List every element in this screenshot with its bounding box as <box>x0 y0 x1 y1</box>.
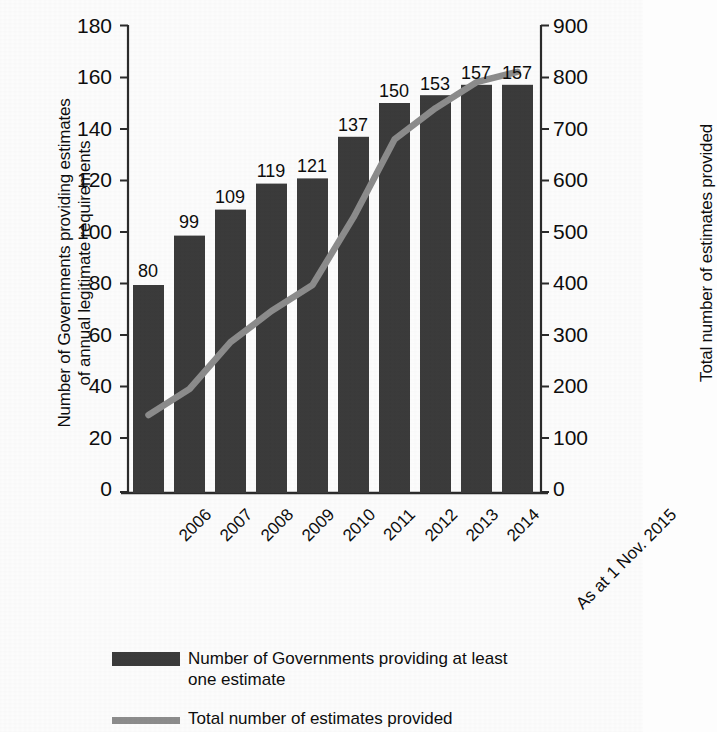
legend-swatch-line-icon <box>112 717 180 724</box>
right-axis-spine <box>541 25 549 493</box>
bar-2006 <box>133 285 164 493</box>
legend-swatch-bar-icon <box>112 652 180 666</box>
bar-label-2012: 150 <box>371 82 417 100</box>
bar-2010 <box>297 178 328 493</box>
bar-label-2015: 157 <box>494 64 540 82</box>
bar-label-2006: 80 <box>125 262 171 280</box>
legend-label-bar-line2: one estimate <box>188 670 285 689</box>
legend-label-bar-line1: Number of Governments providing at least <box>188 649 507 668</box>
bar-label-2007: 99 <box>166 213 212 231</box>
left-axis-spine <box>120 25 128 493</box>
bar-series <box>133 85 533 493</box>
bar-label-2014: 157 <box>453 64 499 82</box>
bar-2014 <box>461 85 492 493</box>
legend-item-line: Total number of estimates provided <box>112 708 582 729</box>
legend-label-line: Total number of estimates provided <box>188 708 582 729</box>
right-axis-title: Total number of estimates provided <box>697 33 717 473</box>
bar-label-2011: 137 <box>330 116 376 134</box>
chart-legend: Number of Governments providing at least… <box>112 648 582 732</box>
legend-label-bar: Number of Governments providing at least… <box>188 648 582 690</box>
bar-2007 <box>174 236 205 493</box>
bar-2015 <box>502 85 533 493</box>
bar-label-2013: 153 <box>412 75 458 93</box>
bar-2009 <box>256 184 287 493</box>
bar-label-2008: 109 <box>207 188 253 206</box>
bar-label-2009: 119 <box>248 162 294 180</box>
legend-item-bar: Number of Governments providing at least… <box>112 648 582 690</box>
bar-label-2010: 121 <box>289 157 335 175</box>
bar-2013 <box>420 95 451 493</box>
